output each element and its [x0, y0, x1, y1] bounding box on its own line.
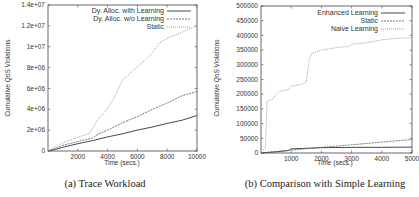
y-tick-label: 2e+06: [27, 126, 46, 133]
legend-label-a-2: Static: [146, 23, 164, 30]
chart-a: 02e+064e+066e+068e+061e+071.2e+071.4e+07…: [4, 1, 206, 190]
legend-label-b-2: Naive Learning: [331, 25, 378, 33]
y-tick-label: 150000: [236, 105, 258, 112]
y-tick-label: 200000: [236, 90, 258, 97]
y-tick-label: 500000: [236, 2, 258, 9]
figure: 02e+064e+066e+068e+061e+071.2e+071.4e+07…: [0, 0, 419, 197]
caption-b: (b) Comparison with Simple Learning: [245, 178, 406, 190]
y-tick-label: 250000: [236, 76, 258, 83]
y-ticks-b: 0500001000001500002000002500003000003500…: [236, 2, 412, 156]
series-line-dy-alloc-w-o-learning: [48, 92, 197, 151]
caption-a: (a) Trace Workload: [64, 178, 146, 190]
y-tick-label: 1.4e+07: [21, 1, 45, 8]
y-tick-label: 50000: [240, 135, 258, 142]
y-axis-label-a: Cumulative QoS Violations: [4, 39, 12, 117]
x-tick-label: 1000: [284, 155, 299, 162]
y-tick-label: 300000: [236, 61, 258, 68]
x-tick-label: 2000: [71, 153, 86, 160]
y-tick-label: 400000: [236, 32, 258, 39]
y-tick-label: 0: [41, 147, 45, 154]
y-tick-label: 350000: [236, 46, 258, 53]
legend-label-a-1: Dy. Alloc. w/o Learning: [93, 15, 164, 23]
y-tick-label: 8e+06: [27, 64, 46, 71]
series-a: [48, 26, 197, 151]
y-tick-label: 0: [254, 149, 258, 156]
legend-label-b-1: Static: [360, 17, 378, 24]
y-tick-label: 1e+07: [27, 43, 46, 50]
plot-frame-a: [48, 5, 197, 151]
y-tick-label: 4e+06: [27, 105, 46, 112]
series-line-naive-learning: [261, 38, 412, 153]
y-tick-label: 1.2e+07: [21, 22, 45, 29]
y-tick-label: 100000: [236, 120, 258, 127]
x-axis-label-b: Time (secs.): [317, 159, 353, 167]
series-line-static: [48, 26, 197, 151]
y-axis-label-b: Cumulative QoS Violations: [213, 39, 221, 117]
series-b: [261, 38, 412, 153]
y-tick-label: 450000: [236, 17, 258, 24]
y-tick-label: 6e+06: [27, 85, 46, 92]
x-ticks-a: 200040006000800010000: [71, 5, 207, 160]
legend-b: Enhanced Learning Static Naive Learning: [317, 9, 405, 33]
series-line-enhanced-learning: [261, 147, 412, 153]
x-tick-label: 10000: [188, 153, 206, 160]
series-line-dy-alloc-with-learning: [48, 116, 197, 152]
legend-label-a-0: Dy. Alloc. with Learning: [92, 7, 164, 15]
chart-b: 0500001000001500002000002500003000003500…: [213, 2, 419, 190]
legend-label-b-0: Enhanced Learning: [317, 9, 378, 17]
legend-a: Dy. Alloc. with Learning Dy. Alloc. w/o …: [92, 7, 191, 30]
x-tick-label: 5000: [405, 155, 419, 162]
x-tick-label: 8000: [160, 153, 175, 160]
series-line-static: [261, 140, 412, 154]
x-axis-label-a: Time (secs.): [104, 159, 140, 167]
x-tick-label: 4000: [375, 155, 390, 162]
